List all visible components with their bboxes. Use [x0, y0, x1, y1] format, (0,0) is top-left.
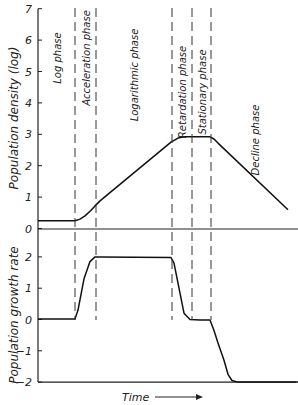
- phase-boundaries: [75, 8, 211, 320]
- lower-y-axis-title: Population growth rate: [7, 246, 21, 384]
- y-tick-label: 0: [25, 314, 32, 327]
- y-tick-label: 2: [25, 251, 32, 264]
- phase-label: Acceleration phase: [81, 10, 92, 107]
- phase-label: Log phase: [52, 32, 63, 83]
- data-line: [38, 257, 298, 382]
- upper-y-axis-title: Population density (log): [7, 47, 21, 190]
- phase-label: Logarithmic phase: [129, 29, 140, 122]
- population-phases-chart: 01234567 −2−1012 Log phaseAcceleration p…: [0, 0, 298, 405]
- y-tick-label: 2: [25, 160, 32, 173]
- phase-label: Retardation phase: [177, 46, 188, 138]
- time-axis-label: Time: [122, 391, 203, 404]
- y-tick-label: 0: [25, 223, 32, 236]
- y-tick-label: 5: [25, 66, 32, 79]
- y-tick-label: 3: [25, 128, 32, 141]
- y-tick-label: 6: [25, 34, 32, 47]
- y-tick-label: 1: [25, 191, 32, 204]
- y-tick-label: 1: [25, 282, 32, 295]
- time-label: Time: [122, 391, 149, 404]
- arrowhead-icon: [196, 394, 203, 400]
- lower-panel: −2−1012: [16, 229, 298, 389]
- phase-label: Stationary phase: [197, 49, 208, 134]
- phase-label: Decline phase: [250, 105, 261, 176]
- y-tick-label: 4: [25, 97, 32, 110]
- phase-labels: Log phaseAcceleration phaseLogarithmic p…: [52, 10, 261, 175]
- y-tick-label: 7: [25, 3, 32, 16]
